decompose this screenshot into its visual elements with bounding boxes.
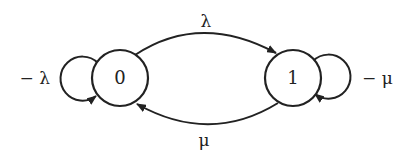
state-0-label: 0 — [114, 67, 125, 88]
state-1-label: 1 — [287, 67, 298, 88]
state-diagram: 0 1 λ μ − λ − μ — [0, 0, 415, 155]
label-lambda: λ — [201, 11, 212, 31]
label-mu: μ — [198, 130, 209, 150]
label-neg-mu: − μ — [362, 68, 393, 88]
label-neg-lambda: − λ — [20, 68, 51, 88]
transition-0-to-1 — [135, 33, 276, 55]
transition-1-to-0 — [137, 103, 278, 124]
